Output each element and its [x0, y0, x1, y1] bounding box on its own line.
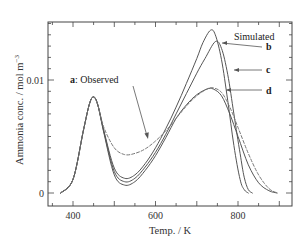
plot-area [61, 30, 278, 193]
x-tick-label-800: 800 [231, 210, 246, 221]
y-tick-label-0: 0 [39, 188, 44, 199]
series-c-line [61, 41, 253, 193]
svg-text:Ammonia conc. / mol m−3: Ammonia conc. / mol m−3 [13, 55, 25, 165]
annotation-a-observed: a: Observed [70, 74, 119, 85]
x-ticks [52, 22, 279, 206]
x-tick-label-600: 600 [148, 210, 163, 221]
arrow-a-head [145, 132, 149, 139]
chart: 400 600 800 0 0.01 Temp. / K Ammonia con… [0, 0, 307, 244]
annotation-d: d [266, 85, 272, 96]
y-ticks [48, 24, 292, 194]
series-b-line [61, 30, 249, 193]
arrow-c-head [234, 68, 239, 72]
y-tick-label-0.01: 0.01 [27, 75, 45, 86]
annotation-c: c [266, 64, 271, 75]
y-axis-title-superscript: −3 [13, 55, 21, 63]
arrow-b-head [222, 41, 227, 45]
x-tick-label-400: 400 [66, 210, 81, 221]
annotation-a-text: : Observed [75, 74, 119, 85]
arrow-b-line [222, 43, 262, 47]
arrow-a-line [133, 86, 147, 136]
annotation-b: b [266, 41, 272, 52]
y-axis-title-main: Ammonia conc. / mol m [14, 63, 25, 165]
x-axis-title: Temp. / K [149, 225, 192, 236]
y-axis-title: Ammonia conc. / mol m−3 [13, 55, 25, 165]
